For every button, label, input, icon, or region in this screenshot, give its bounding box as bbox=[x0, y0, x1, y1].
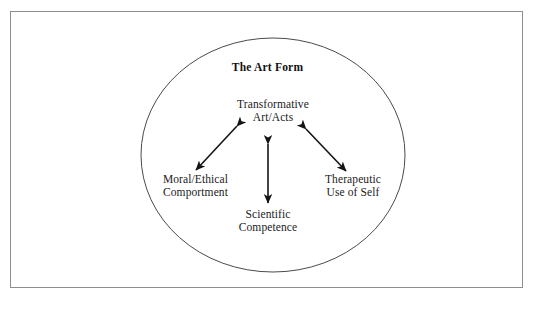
diagram-graphics bbox=[0, 0, 535, 313]
node-moral-ethical-comportment-line1: Moral/Ethical bbox=[128, 173, 263, 186]
node-moral-ethical-comportment: Moral/Ethical Comportment bbox=[128, 173, 263, 199]
node-moral-ethical-comportment-line2: Comportment bbox=[128, 186, 263, 199]
node-scientific-competence-line1: Scientific bbox=[203, 208, 333, 221]
connector-center-right bbox=[306, 129, 346, 171]
node-transformative-art-acts-line1: Transformative bbox=[193, 98, 353, 111]
node-scientific-competence: Scientific Competence bbox=[203, 208, 333, 234]
figure-canvas: The Art Form Transformative Art/Acts Mor… bbox=[0, 0, 535, 313]
node-therapeutic-use-of-self-line1: Therapeutic bbox=[288, 173, 418, 186]
node-scientific-competence-line2: Competence bbox=[203, 221, 333, 234]
node-therapeutic-use-of-self-line2: Use of Self bbox=[288, 186, 418, 199]
connector-center-left bbox=[196, 126, 237, 170]
art-form-ellipse bbox=[141, 38, 405, 272]
node-transformative-art-acts-line2: Art/Acts bbox=[193, 111, 353, 124]
node-therapeutic-use-of-self: Therapeutic Use of Self bbox=[288, 173, 418, 199]
diagram-title: The Art Form bbox=[0, 61, 535, 73]
node-transformative-art-acts: Transformative Art/Acts bbox=[193, 98, 353, 124]
